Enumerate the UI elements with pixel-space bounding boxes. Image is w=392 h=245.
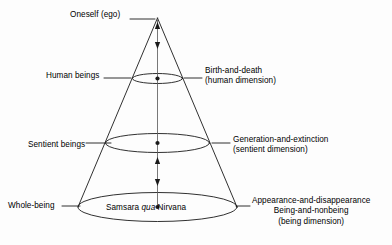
label-birth-and-death-group: Birth-and-death (human dimension) [205, 66, 276, 87]
label-generation-and-extinction: Generation-and-extinction [233, 135, 328, 145]
samsara-word: Samsara [106, 203, 139, 212]
label-generation-and-extinction-group: Generation-and-extinction (sentient dime… [233, 135, 328, 156]
axis-arrow-up-lower [155, 157, 160, 164]
label-being-and-nonbeing: Being-and-nonbeing [252, 206, 370, 216]
label-sentient-beings: Sentient beings [28, 140, 85, 150]
node-dot-human [155, 76, 159, 80]
label-being-dimension: (being dimension) [252, 217, 370, 227]
label-oneself-ego: Oneself (ego) [70, 10, 120, 20]
label-whole-being: Whole-being [8, 201, 55, 211]
axis-arrow-down-lower [155, 179, 160, 186]
label-human-dimension: (human dimension) [205, 76, 276, 86]
nirvana-word: Nirvana [158, 203, 187, 212]
cone-right-edge [158, 18, 238, 207]
cone-diagram: Oneself (ego) Human beings Sentient bein… [0, 0, 392, 245]
node-dot-sentient [155, 141, 159, 145]
label-human-beings: Human beings [46, 71, 99, 81]
label-samsara-qua-nirvana: Samsara qua Nirvana [106, 203, 186, 213]
label-being-dimension-group: Appearance-and-disappearance Being-and-n… [252, 196, 370, 227]
label-appearance-and-disappearance: Appearance-and-disappearance [252, 196, 370, 206]
cone-left-edge [78, 18, 158, 207]
label-sentient-dimension: (sentient dimension) [233, 145, 328, 155]
axis-arrow-down-upper [155, 42, 160, 49]
label-birth-and-death: Birth-and-death [205, 66, 276, 76]
qua-word: qua [141, 203, 155, 212]
